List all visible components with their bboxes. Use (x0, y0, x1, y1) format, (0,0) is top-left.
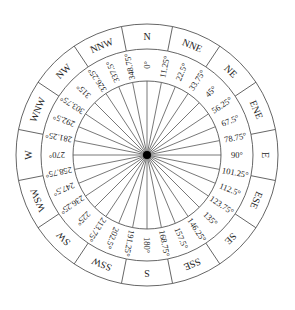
degree-label: 90° (231, 150, 243, 160)
ring-divider (168, 259, 173, 284)
direction-label-s: S (144, 268, 150, 279)
degree-label: 11.25° (157, 55, 171, 79)
ring-divider (121, 27, 126, 52)
direction-label-ese: ESE (248, 190, 265, 211)
degree-label: 168.75° (157, 229, 172, 257)
degree-label: 202.5° (104, 226, 122, 251)
degree-label: 67.5° (220, 112, 241, 128)
center-hub (143, 151, 151, 159)
degree-label: 270° (49, 150, 65, 160)
direction-label-w: W (23, 150, 34, 160)
degree-label: 191.25° (122, 229, 137, 257)
degree-label: 56.25° (210, 95, 234, 116)
ring-divider (206, 243, 220, 264)
degree-label: 247.5° (52, 181, 77, 199)
direction-label-wnw: WNW (27, 95, 47, 124)
degree-label: 33.75° (187, 68, 208, 92)
degree-label: 135° (201, 209, 219, 227)
direction-label-ne: NE (222, 63, 239, 80)
ring-divider (74, 243, 88, 264)
degree-label: 0° (142, 61, 152, 69)
degree-label: 180° (142, 237, 152, 253)
ring-divider (206, 46, 220, 67)
degree-label: 281.25° (45, 130, 73, 145)
ring-divider (168, 27, 173, 52)
direction-label-nw: NW (53, 61, 73, 81)
degree-label: 258.75° (45, 165, 73, 180)
direction-label-ene: ENE (248, 99, 266, 121)
degree-label: 112.5° (218, 181, 242, 199)
direction-label-ssw: SSW (90, 255, 114, 273)
ring-divider (74, 46, 88, 67)
spoke-line (147, 155, 199, 207)
ring-divider (251, 176, 276, 181)
spoke-line (95, 155, 147, 207)
degree-label: 45° (203, 84, 218, 99)
direction-label-nnw: NNW (89, 36, 116, 56)
spoke-line (95, 103, 147, 155)
direction-label-wsw: WSW (28, 186, 48, 213)
ring-divider (19, 129, 44, 134)
spoke-line (147, 103, 199, 155)
ring-divider (38, 214, 59, 228)
ring-divider (235, 214, 256, 228)
direction-label-se: SE (223, 231, 239, 247)
direction-label-e: E (260, 152, 271, 158)
ring-divider (235, 82, 256, 96)
ring-divider (19, 176, 44, 181)
ring-divider (251, 129, 276, 134)
degree-label: 78.75° (223, 130, 247, 144)
degree-label: 225° (74, 209, 92, 227)
direction-label-nne: NNE (181, 37, 204, 55)
degree-label: 157.5° (173, 226, 191, 251)
direction-label-sse: SSE (182, 256, 202, 273)
degree-label: 292.5° (52, 112, 77, 130)
direction-label-n: N (143, 31, 150, 42)
degree-label: 337.5° (104, 60, 122, 85)
degree-label: 101.25° (221, 165, 249, 180)
degree-label: 348.75° (122, 53, 137, 81)
ring-divider (38, 82, 59, 96)
compass-rose-diagram: NNNENEENEEESESESSESSSWSWWSWWWNWNWNNW 0°1… (0, 0, 295, 310)
degree-label: 315° (74, 82, 92, 100)
degree-label: 22.5° (173, 61, 189, 82)
ring-divider (121, 259, 126, 284)
direction-label-sw: SW (54, 229, 73, 248)
